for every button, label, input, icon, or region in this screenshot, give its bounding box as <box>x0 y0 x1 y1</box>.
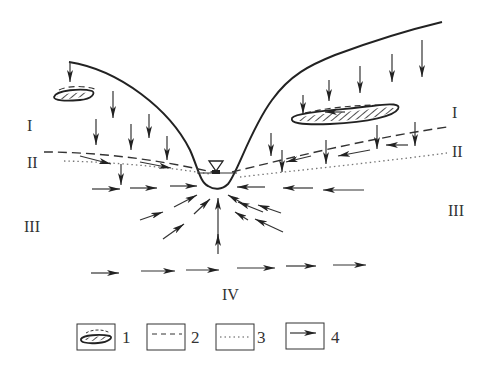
legend: 1 2 3 4 <box>77 323 340 350</box>
river-bed-mark <box>212 170 220 174</box>
legend-item-dashed: 2 <box>147 324 200 350</box>
legend-item-arrow: 4 <box>286 323 340 349</box>
legend-label-3: 3 <box>257 328 266 347</box>
zone-label-i-right: I <box>452 104 457 121</box>
legend-label-1: 1 <box>122 328 131 347</box>
legend-label-2: 2 <box>191 328 200 347</box>
zone-label-ii-left: II <box>27 154 38 171</box>
hydrogeology-diagram: I I II II III III IV 1 2 3 4 <box>0 0 487 372</box>
water-table-left <box>44 152 212 172</box>
legend-item-lens: 1 <box>77 324 131 350</box>
water-level-triangle-icon <box>209 161 223 171</box>
zone-iv-flow-arrows <box>91 265 366 273</box>
legend-item-dotted: 3 <box>216 324 266 350</box>
zone-label-iii-right: III <box>448 202 464 219</box>
legend-label-4: 4 <box>331 328 340 347</box>
perched-lens-right <box>292 104 399 124</box>
zone-label-ii-right: II <box>452 143 463 160</box>
zone-ii-flow-arrows <box>80 145 408 168</box>
zone-label-iv: IV <box>222 286 239 303</box>
zone-iii-flow-arrows <box>92 186 364 254</box>
zone-label-i-left: I <box>27 117 32 134</box>
zone-label-iii-left: III <box>24 218 40 235</box>
perched-lens-left <box>54 87 95 101</box>
zone-boundary-right <box>240 153 447 177</box>
